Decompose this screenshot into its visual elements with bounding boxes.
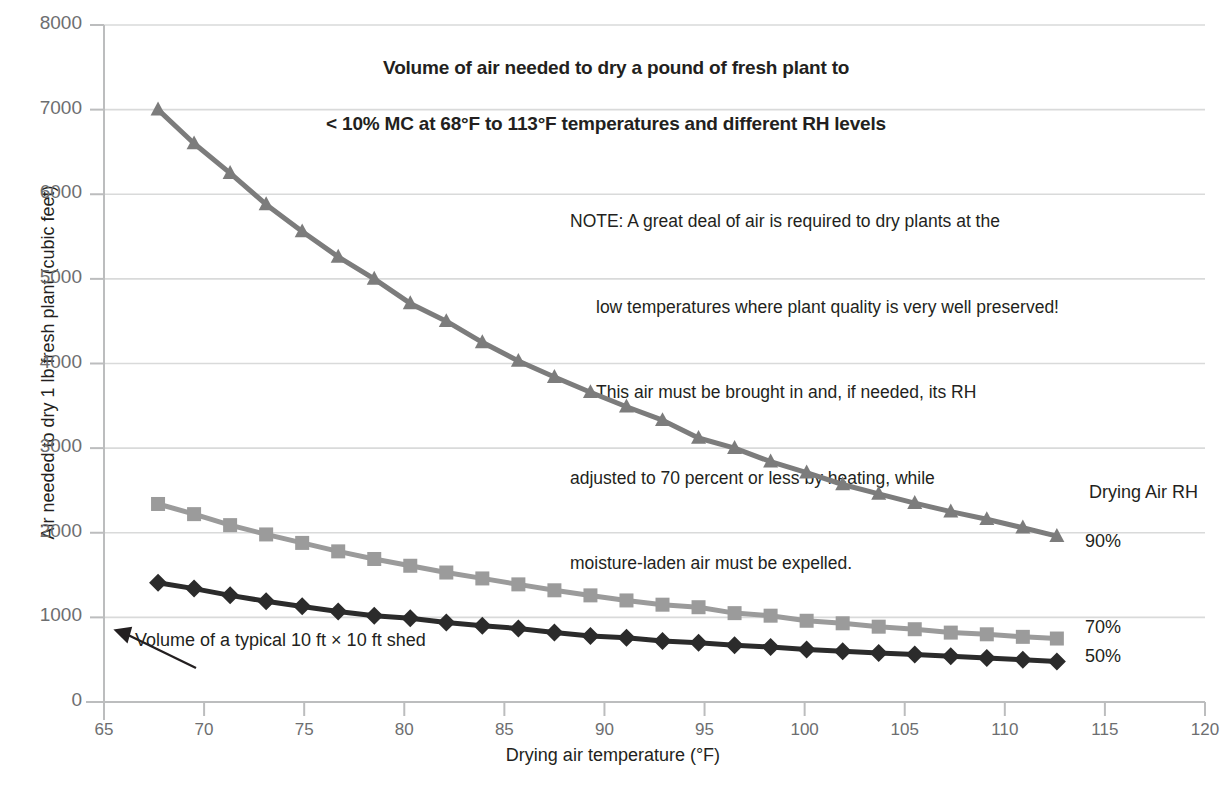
- y-tick-label-5000: 5000: [12, 266, 82, 288]
- series-marker-50pct-3: [257, 592, 275, 610]
- series-marker-70pct-17: [764, 609, 778, 623]
- series-marker-50pct-6: [365, 607, 383, 625]
- series-marker-70pct-8: [439, 566, 453, 580]
- series-line-70pct: [158, 504, 1057, 639]
- series-marker-50pct-21: [906, 646, 924, 664]
- series-marker-90pct-0: [151, 102, 166, 116]
- series-marker-70pct-20: [872, 620, 886, 634]
- y-tick-label-1000: 1000: [12, 604, 82, 626]
- series-marker-70pct-16: [728, 606, 742, 620]
- x-tick-label-70: 70: [174, 720, 234, 740]
- x-tick-label-90: 90: [574, 720, 634, 740]
- series-label-50: 50%: [1085, 646, 1121, 667]
- series-marker-70pct-19: [836, 616, 850, 630]
- series-marker-50pct-12: [581, 627, 599, 645]
- x-tick-label-110: 110: [975, 720, 1035, 740]
- chart-figure: Volume of air needed to dry a pound of f…: [0, 0, 1226, 787]
- series-marker-70pct-0: [151, 497, 165, 511]
- y-tick-label-2000: 2000: [12, 520, 82, 542]
- series-marker-70pct-2: [223, 518, 237, 532]
- plot-area: [0, 0, 1226, 787]
- series-marker-50pct-25: [1048, 652, 1066, 670]
- y-tick-label-8000: 8000: [12, 12, 82, 34]
- x-tick-label-85: 85: [474, 720, 534, 740]
- legend-title: Drying Air RH: [1089, 482, 1198, 503]
- series-marker-50pct-7: [401, 609, 419, 627]
- series-marker-70pct-7: [403, 559, 417, 573]
- x-tick-label-115: 115: [1075, 720, 1135, 740]
- series-marker-50pct-10: [509, 619, 527, 637]
- series-marker-70pct-1: [187, 507, 201, 521]
- x-tick-label-95: 95: [675, 720, 735, 740]
- series-marker-70pct-3: [259, 527, 273, 541]
- series-marker-50pct-0: [149, 574, 167, 592]
- x-tick-label-80: 80: [374, 720, 434, 740]
- series-marker-70pct-23: [980, 627, 994, 641]
- series-label-90: 90%: [1085, 531, 1121, 552]
- series-marker-50pct-14: [654, 632, 672, 650]
- series-marker-70pct-24: [1016, 630, 1030, 644]
- series-marker-70pct-25: [1050, 632, 1064, 646]
- x-tick-label-65: 65: [74, 720, 134, 740]
- y-tick-label-3000: 3000: [12, 435, 82, 457]
- series-marker-70pct-14: [656, 598, 670, 612]
- series-marker-70pct-10: [511, 577, 525, 591]
- series-marker-50pct-8: [437, 613, 455, 631]
- series-marker-50pct-15: [690, 634, 708, 652]
- series-marker-50pct-22: [942, 647, 960, 665]
- shed-volume-annotation: Volume of a typical 10 ft × 10 ft shed: [135, 630, 426, 651]
- series-marker-70pct-5: [331, 544, 345, 558]
- series-marker-50pct-16: [726, 636, 744, 654]
- y-tick-label-4000: 4000: [12, 351, 82, 373]
- series-marker-50pct-23: [978, 649, 996, 667]
- series-marker-50pct-19: [834, 642, 852, 660]
- series-50pct: [149, 574, 1066, 671]
- series-70pct: [151, 497, 1064, 646]
- y-tick-label-7000: 7000: [12, 97, 82, 119]
- x-tick-label-75: 75: [274, 720, 334, 740]
- series-line-90pct: [158, 110, 1057, 536]
- series-marker-50pct-17: [762, 638, 780, 656]
- series-marker-50pct-13: [617, 629, 635, 647]
- series-marker-70pct-9: [475, 571, 489, 585]
- series-label-70: 70%: [1085, 617, 1121, 638]
- x-tick-label-120: 120: [1175, 720, 1226, 740]
- series-marker-70pct-6: [367, 552, 381, 566]
- series-marker-70pct-13: [619, 593, 633, 607]
- x-tick-label-105: 105: [875, 720, 935, 740]
- series-marker-70pct-4: [295, 536, 309, 550]
- series-marker-70pct-11: [547, 583, 561, 597]
- series-marker-70pct-15: [692, 600, 706, 614]
- series-marker-50pct-2: [221, 586, 239, 604]
- y-tick-label-6000: 6000: [12, 181, 82, 203]
- series-marker-70pct-12: [583, 588, 597, 602]
- series-marker-50pct-20: [870, 644, 888, 662]
- series-marker-50pct-4: [293, 597, 311, 615]
- series-marker-70pct-18: [800, 614, 814, 628]
- series-90pct: [151, 102, 1065, 542]
- series-marker-50pct-11: [545, 624, 563, 642]
- series-marker-50pct-1: [185, 580, 203, 598]
- x-tick-label-100: 100: [775, 720, 835, 740]
- series-marker-50pct-18: [798, 641, 816, 659]
- series-marker-50pct-24: [1014, 651, 1032, 669]
- series-marker-50pct-9: [473, 617, 491, 635]
- x-axis-title: Drying air temperature (°F): [333, 745, 893, 766]
- series-marker-70pct-21: [908, 622, 922, 636]
- series-marker-70pct-22: [944, 626, 958, 640]
- y-tick-label-0: 0: [12, 689, 82, 711]
